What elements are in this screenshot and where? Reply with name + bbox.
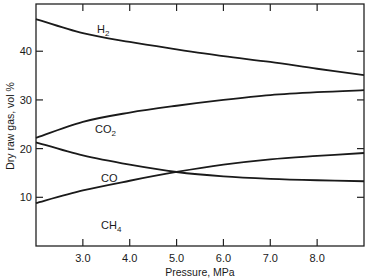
chart: 3.04.05.06.07.08.010203040 H2CO2COCH4 Pr… [0, 0, 366, 280]
axis-ticks: 3.04.05.06.07.08.010203040 [20, 4, 364, 264]
y-tick-label: 30 [20, 94, 32, 106]
x-tick-label: 8.0 [309, 252, 324, 264]
x-tick-label: 5.0 [169, 252, 184, 264]
y-tick-label: 40 [20, 45, 32, 57]
y-tick-label: 10 [20, 191, 32, 203]
y-tick-label: 20 [20, 143, 32, 155]
series-line-h2 [36, 19, 364, 75]
y-axis-label: Dry raw gas, vol % [4, 82, 16, 170]
x-tick-label: 4.0 [122, 252, 137, 264]
series-line-co [36, 142, 364, 181]
series-label-ch4: CH4 [101, 219, 122, 234]
series-line-co2 [36, 90, 364, 138]
x-tick-label: 7.0 [263, 252, 278, 264]
series-label-co: CO [101, 172, 118, 184]
x-axis-label: Pressure, MPa [165, 266, 235, 278]
x-tick-label: 3.0 [75, 252, 90, 264]
x-tick-label: 6.0 [216, 252, 231, 264]
series-label-co2: CO2 [95, 123, 117, 138]
plot-frame [36, 4, 364, 246]
series-labels: H2CO2COCH4 [95, 23, 122, 234]
series-line-ch4 [36, 153, 364, 203]
series-lines [36, 19, 364, 203]
